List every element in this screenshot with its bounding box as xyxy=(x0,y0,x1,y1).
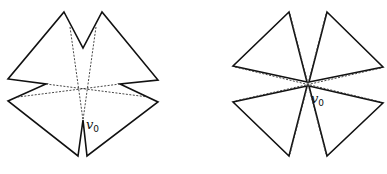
left-figure: v0 xyxy=(8,12,158,156)
vertex-label-v0-left: v0 xyxy=(86,117,99,134)
right-figure: v0 xyxy=(233,12,383,156)
right-triangle-top-left xyxy=(233,12,307,82)
right-triangle-top-right xyxy=(309,12,383,82)
vertex-label-v0-right: v0 xyxy=(311,91,324,108)
right-dashed-line xyxy=(235,68,381,101)
left-polygon-outline xyxy=(8,12,158,156)
left-dashed-line xyxy=(83,27,96,120)
right-triangle-bottom-right xyxy=(309,86,383,156)
diagram-canvas: v0 v0 xyxy=(0,0,387,174)
right-triangle-bottom-left xyxy=(233,86,307,156)
left-dashed-line xyxy=(70,27,83,120)
